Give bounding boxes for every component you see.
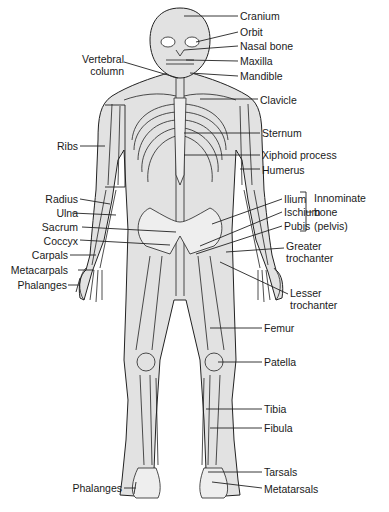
label-ulna: Ulna — [56, 207, 78, 219]
label-innominate-bone: bone — [314, 206, 337, 218]
label-metacarpals: Metacarpals — [11, 264, 68, 276]
label-mandible: Mandible — [240, 70, 283, 82]
skeleton-diagram: Cranium Orbit Nasal bone Maxilla Mandibl… — [0, 0, 389, 512]
skull — [150, 8, 210, 78]
label-ribs: Ribs — [57, 140, 78, 152]
label-nasal-bone: Nasal bone — [240, 40, 293, 52]
label-fibula: Fibula — [264, 422, 293, 434]
label-radius: Radius — [45, 193, 78, 205]
label-lesser-trochanter-1: Lesser — [290, 287, 322, 299]
label-xiphoid-process: Xiphoid process — [262, 149, 337, 161]
label-clavicle: Clavicle — [260, 94, 297, 106]
label-column: column — [90, 65, 124, 77]
label-phalanges-hand: Phalanges — [17, 279, 67, 291]
label-cranium: Cranium — [240, 10, 280, 22]
label-femur: Femur — [264, 322, 294, 334]
label-innominate: Innominate — [314, 192, 366, 204]
label-carpals: Carpals — [32, 249, 68, 261]
label-innominate-pelvis: (pelvis) — [314, 220, 348, 232]
label-lesser-trochanter-2: trochanter — [290, 299, 337, 311]
label-sacrum: Sacrum — [42, 221, 78, 233]
label-greater-trochanter-1: Greater — [286, 240, 322, 252]
label-phalanges-foot: Phalanges — [72, 482, 122, 494]
label-tibia: Tibia — [264, 403, 286, 415]
label-maxilla: Maxilla — [240, 55, 273, 67]
label-greater-trochanter-2: trochanter — [286, 252, 333, 264]
label-vertebral: Vertebral — [82, 53, 124, 65]
label-orbit: Orbit — [240, 26, 263, 38]
label-patella: Patella — [264, 356, 296, 368]
label-ilium: Ilium — [284, 193, 306, 205]
label-pubis: Pubis — [284, 220, 310, 232]
label-coccyx: Coccyx — [44, 235, 78, 247]
label-humerus: Humerus — [262, 164, 305, 176]
orbit-left — [161, 37, 175, 47]
label-metatarsals: Metatarsals — [264, 483, 318, 495]
label-sternum: Sternum — [262, 127, 302, 139]
label-tarsals: Tarsals — [264, 466, 297, 478]
